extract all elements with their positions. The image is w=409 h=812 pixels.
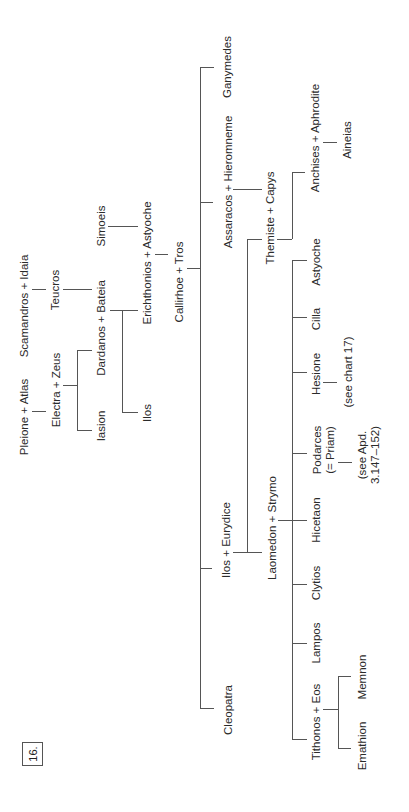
line-to-lampos [292,643,307,644]
line-erichthonios-tros [155,254,168,255]
node-erichthonios-astyoche: Erichthonios + Astyoche [141,201,154,324]
line-to-ilos [122,412,138,413]
line-to-astyoche [292,260,307,261]
line-pleione-electra [32,411,46,412]
podarces-note-line2: 3.147–152) [369,426,382,484]
node-laomedon-strymo: Laomedon + Strymo [266,476,279,580]
node-scamandros-idaia: Scamandros + Idaia [18,255,31,358]
node-iasion: Iasion [95,411,108,442]
line-anchises-aineias [323,142,337,143]
node-callirhoe-tros: Callirhoe + Tros [173,242,186,323]
node-themiste-capys: Themiste + Capys [264,172,277,265]
node-anchises-aphrodite: Anchises + Aphrodite [309,84,322,192]
hesione-cross-reference: (see chart 17) [342,337,355,408]
line-simoeis-astyoche [108,226,138,227]
line-to-emathion [338,748,351,749]
line-tithonos-children [323,709,338,710]
podarces-cross-reference: (see Apd. 3.147–152) [356,426,382,484]
podarces-name: Podarces [311,426,324,475]
node-dardanos-bateia: Dardanos + Bateia [95,280,108,376]
line-tithonos-bracket [338,676,339,748]
node-memnon: Memnon [356,655,369,700]
line-to-ganymedes [200,67,214,68]
line-tros-bracket [200,67,201,709]
line-assaracos-capys [233,189,262,190]
line-to-cleopatra [200,708,214,709]
node-ilos-son-of-dardanos: Ilos [141,404,154,422]
podarces-note-line1: (see Apd. [356,426,369,484]
line-electra-bracket [77,350,78,430]
node-aineias: Aineias [341,121,354,159]
line-to-anchises [292,172,305,173]
line-dardanos-children [110,310,122,311]
node-podarces: Podarces (= Priam) [311,426,337,475]
chart-number: 16. [27,746,39,761]
chart-number-box: 16. [22,742,43,766]
line-capys-children [277,239,292,240]
node-hesione: Hesione [310,353,323,395]
node-simoeis: Simoeis [95,206,108,247]
node-astyoche: Astyoche [310,238,323,285]
line-laomedon-children [278,520,292,521]
node-emathion: Emathion [356,722,369,771]
line-laomedon-bracket [292,260,293,740]
line-podarces-note [338,462,352,463]
line-to-laomedon [247,552,262,553]
line-to-assaracos [200,202,213,203]
line-to-themiste [247,239,262,240]
node-teucros: Teucros [49,270,62,310]
node-cleopatra: Cleopatra [222,685,235,735]
line-to-hesione [292,372,307,373]
line-to-hicetaon [292,520,307,521]
node-lampos: Lampos [310,623,323,664]
line-hesione-note [323,382,337,383]
line-to-erichthonios [122,310,138,311]
node-clytios: Clytios [310,566,323,601]
line-dardanos-bracket [122,310,123,412]
line-eurydice-children [233,552,247,553]
line-electra-children [63,385,77,386]
line-tros-children [187,268,200,269]
line-to-clytios [292,584,307,585]
node-hicetaon: Hicetaon [310,497,323,542]
node-ilos-eurydice: Ilos + Eurydice [220,502,233,578]
genealogy-chart: 16. Pleione + Atlas Scamandros + Idaia E… [0,0,409,812]
line-ilos-bracket [247,239,248,552]
line-to-podarces [292,453,307,454]
node-electra-zeus: Electra + Zeus [50,353,63,427]
node-assaracos-hieromneme: Assaracos + Hieromneme [222,116,235,249]
line-to-iasion [77,430,92,431]
line-teucros-bateia [63,289,92,290]
node-ganymedes: Ganymedes [221,36,234,98]
line-to-ilos-eurydice [200,568,212,569]
line-scamandros-teucros [32,289,46,290]
line-to-cilla [292,317,307,318]
line-to-dardanos [77,350,92,351]
podarces-alias: (= Priam) [324,426,337,475]
line-capys-bracket [292,172,293,239]
line-to-memnon [338,676,351,677]
node-pleione-atlas: Pleione + Atlas [18,379,31,455]
node-cilla: Cilla [310,308,323,330]
node-tithonos-eos: Tithonos + Eos [310,684,323,761]
line-to-tithonos [292,739,307,740]
